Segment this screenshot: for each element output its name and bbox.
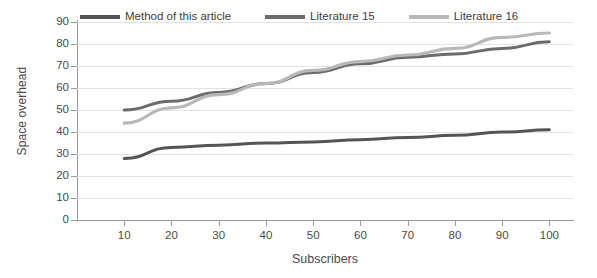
y-tick-label: 80 [33,37,69,49]
series-line-method-of-this-article [124,130,549,159]
legend-label-literature-15: Literature 15 [310,11,375,23]
x-tick-mark [124,220,125,226]
x-tick-label: 60 [340,229,380,241]
legend-swatch-literature-15 [265,15,305,19]
x-tick-label: 70 [388,229,428,241]
x-tick-mark [313,220,314,226]
x-tick-label: 10 [104,229,144,241]
y-tick-label: 90 [33,15,69,27]
legend-item-method-of-this-article: Method of this article [80,11,231,23]
legend-label-literature-16: Literature 16 [454,11,519,23]
x-tick-label: 20 [151,229,191,241]
x-tick-mark [171,220,172,226]
x-tick-mark [360,220,361,226]
y-tick-label: 0 [33,213,69,225]
y-tick-label: 20 [33,169,69,181]
x-tick-label: 100 [529,229,569,241]
y-tick-mark [71,220,77,221]
y-tick-label: 30 [33,147,69,159]
y-tick-label: 60 [33,81,69,93]
x-tick-mark [549,220,550,226]
legend-swatch-method-of-this-article [80,15,120,19]
x-axis-line [77,220,574,221]
x-tick-mark [219,220,220,226]
x-tick-label: 90 [482,229,522,241]
x-tick-mark [455,220,456,226]
x-tick-label: 30 [199,229,239,241]
x-tick-label: 50 [293,229,333,241]
y-tick-label: 50 [33,103,69,115]
series-line-literature-15 [124,42,549,110]
chart-container: Space overhead 0102030405060708090 10203… [0,0,597,278]
legend-item-literature-15: Literature 15 [265,11,375,23]
legend-swatch-literature-16 [409,15,449,19]
x-tick-label: 40 [246,229,286,241]
legend-item-literature-16: Literature 16 [409,11,519,23]
x-tick-label: 80 [435,229,475,241]
series-lines [77,22,573,220]
y-tick-label: 70 [33,59,69,71]
y-tick-label: 10 [33,191,69,203]
y-axis-title: Space overhead [15,31,29,191]
x-tick-mark [502,220,503,226]
y-tick-label: 40 [33,125,69,137]
series-line-literature-16 [124,33,549,123]
x-axis-title: Subscribers [77,252,573,266]
x-tick-mark [266,220,267,226]
chart-legend: Method of this article Literature 15 Lit… [80,11,518,23]
x-tick-mark [408,220,409,226]
legend-label-method-of-this-article: Method of this article [125,11,231,23]
